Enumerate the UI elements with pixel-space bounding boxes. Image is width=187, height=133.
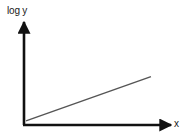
x-axis-label: x bbox=[174, 118, 179, 130]
y-axis-label: log y bbox=[7, 5, 27, 17]
data-line bbox=[26, 77, 151, 121]
chart-canvas bbox=[0, 0, 187, 133]
